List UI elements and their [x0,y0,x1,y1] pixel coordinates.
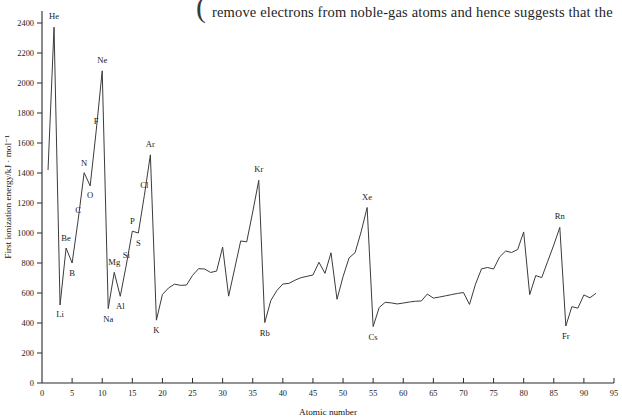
data-series [48,27,596,326]
x-axis-title: Atomic number [299,407,357,417]
element-label-rn: Rn [555,211,566,221]
y-tick-label: 2200 [17,49,34,58]
x-tick-label: 30 [218,389,226,398]
x-tick-label: 60 [399,389,407,398]
element-label-be: Be [61,233,71,243]
element-label-cs: Cs [369,332,379,342]
element-label-s: S [136,238,141,248]
element-label-al: Al [116,301,125,311]
x-axis: 05101520253035404550556065707580859095 [40,378,618,398]
x-tick-label: 5 [70,389,74,398]
ionization-energy-line [48,27,596,326]
element-label-o: O [87,190,93,200]
point-labels: HeLiBeBCNOFNeNaMgAlSiPSClArKKrRbXeCsRnFr [49,11,570,341]
x-tick-label: 10 [98,389,106,398]
x-tick-label: 65 [429,389,437,398]
element-label-cl: Cl [140,180,149,190]
element-label-fr: Fr [562,331,570,341]
element-label-mg: Mg [108,257,121,267]
y-tick-label: 1800 [17,109,34,118]
y-tick-label: 1000 [17,229,34,238]
y-tick-label: 400 [21,319,34,328]
x-tick-label: 50 [339,389,347,398]
element-label-li: Li [56,309,64,319]
chart-canvas: 0200400600800100012001400160018002000220… [0,0,622,419]
x-tick-label: 80 [519,389,527,398]
element-label-xe: Xe [362,192,372,202]
element-label-kr: Kr [254,164,263,174]
y-axis-title: First ionization energy/kJ · mol⁻¹ [3,135,13,259]
y-tick-label: 200 [21,349,34,358]
ionization-energy-chart: 0200400600800100012001400160018002000220… [0,0,622,419]
x-tick-label: 55 [369,389,377,398]
element-label-ne: Ne [97,55,107,65]
x-tick-label: 0 [40,389,44,398]
y-tick-label: 1200 [17,199,34,208]
x-tick-label: 25 [188,389,196,398]
x-tick-label: 15 [128,389,136,398]
x-tick-label: 40 [279,389,287,398]
element-label-p: P [130,216,135,226]
x-tick-label: 20 [158,389,166,398]
y-tick-label: 1600 [17,139,34,148]
element-label-ar: Ar [146,139,155,149]
y-tick-label: 600 [21,289,34,298]
y-tick-label: 1400 [17,169,34,178]
y-tick-label: 800 [21,259,34,268]
y-tick-label: 0 [30,379,34,388]
y-tick-label: 2000 [17,79,34,88]
axis-titles: Atomic numberFirst ionization energy/kJ … [3,135,357,417]
y-axis: 0200400600800100012001400160018002000220… [17,11,42,388]
element-label-c: C [75,205,81,215]
x-tick-label: 70 [459,389,467,398]
element-label-b: B [69,268,75,278]
x-tick-label: 85 [550,389,558,398]
x-tick-label: 35 [249,389,257,398]
x-tick-label: 45 [309,389,317,398]
x-tick-label: 90 [580,389,588,398]
element-label-si: Si [123,250,131,260]
x-tick-label: 75 [489,389,497,398]
y-tick-label: 2400 [17,19,34,28]
element-label-he: He [49,11,59,21]
element-label-na: Na [103,314,113,324]
element-label-rb: Rb [260,328,270,338]
element-label-k: K [153,325,160,335]
x-tick-label: 95 [610,389,618,398]
element-label-f: F [94,116,99,126]
element-label-n: N [81,158,88,168]
